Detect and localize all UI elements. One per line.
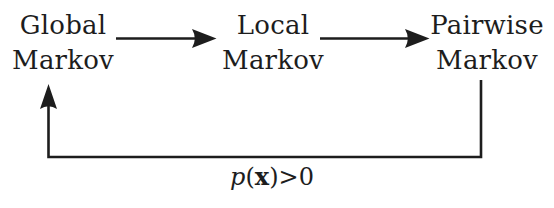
loop-label-probability-positive: p(x)>0 bbox=[205, 165, 339, 189]
node-global-markov: Global Markov bbox=[0, 12, 126, 73]
arrow-global-to-local bbox=[116, 29, 217, 48]
node-pairwise-markov-line2: Markov bbox=[420, 47, 554, 73]
node-global-markov-line1: Global bbox=[0, 12, 126, 38]
node-local-markov-line2: Markov bbox=[215, 47, 331, 73]
loop-label-close-paren: ) bbox=[269, 163, 278, 191]
loop-label-vector-x: x bbox=[255, 162, 269, 191]
loop-label-value: 0 bbox=[299, 163, 314, 191]
node-pairwise-markov: Pairwise Markov bbox=[420, 12, 554, 73]
loop-label-open-paren: ( bbox=[245, 163, 254, 191]
node-global-markov-line2: Markov bbox=[0, 47, 126, 73]
loop-label-relation: > bbox=[279, 163, 299, 191]
arrow-pairwise-to-global-loop bbox=[40, 80, 481, 157]
node-local-markov-line1: Local bbox=[215, 12, 331, 38]
loop-label-p: p bbox=[230, 163, 245, 191]
node-local-markov: Local Markov bbox=[215, 12, 331, 73]
node-pairwise-markov-line1: Pairwise bbox=[420, 12, 554, 38]
arrow-local-to-pairwise bbox=[320, 29, 430, 48]
markov-property-diagram: Global Markov Local Markov Pairwise Mark… bbox=[0, 0, 554, 208]
